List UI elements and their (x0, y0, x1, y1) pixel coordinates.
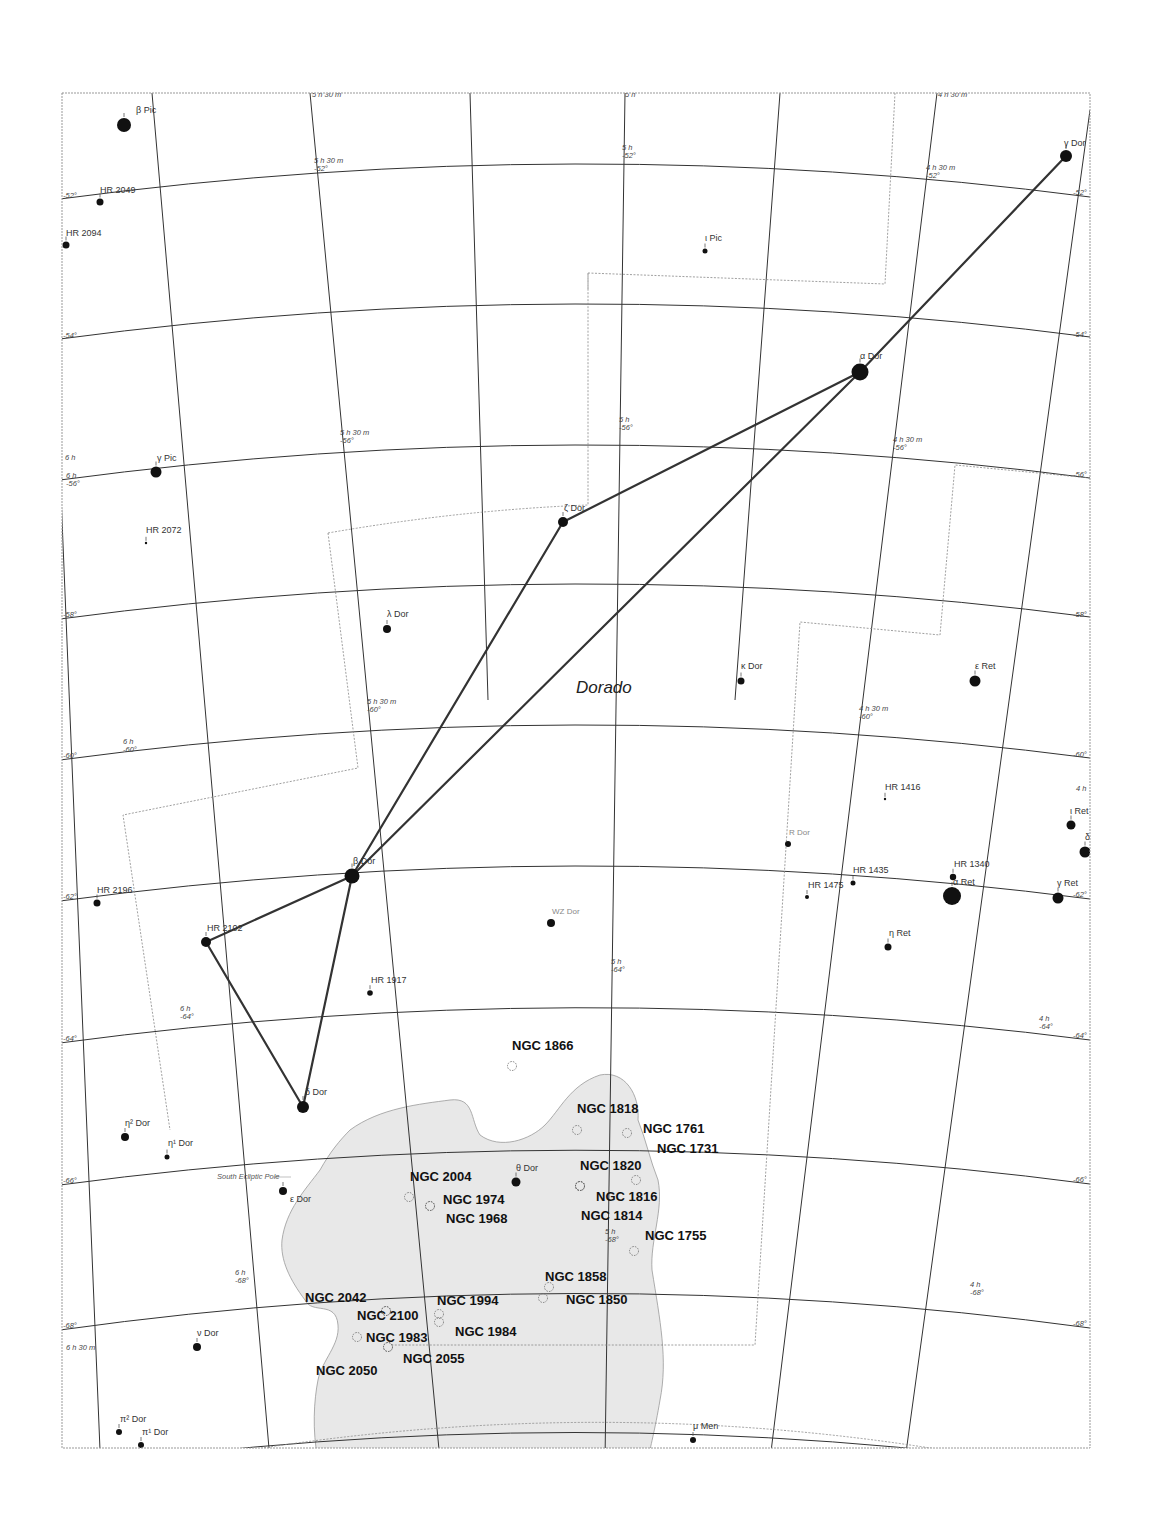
star-label: α Dor (860, 351, 882, 361)
grid-dec-label: -56° (619, 423, 633, 432)
star-icon (138, 1442, 144, 1448)
edge-dec-label: -54° (63, 331, 77, 340)
star-icon (297, 1101, 309, 1113)
star-icon (383, 625, 391, 633)
star-label: γ Ret (1057, 878, 1079, 888)
star-label: λ Dor (387, 609, 409, 619)
edge-dec-label: -52° (1073, 188, 1087, 197)
edge-dec-label: -60° (63, 751, 77, 760)
variable-star-icon (547, 919, 555, 927)
star-label: δ Ret (1085, 832, 1107, 842)
star-icon (805, 895, 809, 899)
deep-sky-label: NGC 2004 (410, 1169, 472, 1184)
figure-line (860, 156, 1066, 372)
variable-star-icon (785, 841, 791, 847)
deep-sky-label: NGC 2042 (305, 1290, 366, 1305)
edge-dec-label: -60° (1073, 750, 1087, 759)
edge-dec-label: -58° (1073, 610, 1087, 619)
star-label: HR 2049 (100, 185, 136, 195)
star-label: ν Dor (197, 1328, 219, 1338)
grid-dec-label: -60° (367, 705, 381, 714)
star-label: η² Dor (125, 1118, 150, 1128)
grid-dec-label: -56° (66, 479, 80, 488)
star-icon (121, 1133, 129, 1141)
deep-sky-label: NGC 1755 (645, 1228, 706, 1243)
deep-sky-label: NGC 2055 (403, 1351, 464, 1366)
figure-line (563, 372, 860, 522)
star-icon (558, 517, 568, 527)
star-icon (885, 944, 892, 951)
star-icon (738, 678, 745, 685)
deep-sky-label: NGC 1731 (657, 1141, 718, 1156)
grid-dec-label: -68° (235, 1276, 249, 1285)
grid-dec-label: -64° (1039, 1022, 1053, 1031)
star-label: θ Dor (516, 1163, 538, 1173)
star-label: ι Ret (1070, 806, 1089, 816)
star-icon (1053, 893, 1064, 904)
star-icon (851, 881, 856, 886)
grid-dec-label: -56° (340, 436, 354, 445)
deep-sky-label: NGC 1818 (577, 1101, 638, 1116)
star-icon (165, 1155, 170, 1160)
star-icon (117, 118, 131, 132)
deep-sky-label: NGC 1816 (596, 1189, 657, 1204)
star-label: β Dor (353, 856, 375, 866)
grid-dec-label: -56° (893, 443, 907, 452)
star-label: ε Ret (975, 661, 996, 671)
star-label: α Ret (953, 877, 975, 887)
ra-label: 5 h (625, 90, 635, 99)
star-label: HR 2196 (97, 885, 133, 895)
edge-dec-label: -64° (1073, 1031, 1087, 1040)
grid-dec-label: -52° (926, 171, 940, 180)
edge-dec-label: -62° (63, 892, 77, 901)
constellation-name: Dorado (576, 678, 632, 697)
star-icon (1067, 821, 1076, 830)
star-label: κ Dor (741, 661, 763, 671)
star-icon (970, 676, 981, 687)
star-label: HR 2102 (207, 923, 243, 933)
star-label: HR 1416 (885, 782, 921, 792)
deep-sky-label: NGC 2050 (316, 1363, 377, 1378)
star-icon (512, 1178, 521, 1187)
deep-sky-label: NGC 1994 (437, 1293, 499, 1308)
figure-line (303, 876, 352, 1107)
star-icon (367, 990, 373, 996)
grid-dec-label: -52° (314, 164, 328, 173)
deep-sky-label: NGC 1820 (580, 1158, 641, 1173)
deep-sky-label: NGC 1850 (566, 1292, 627, 1307)
star-icon (201, 937, 211, 947)
star-icon (703, 249, 708, 254)
edge-dec-label: -56° (1073, 470, 1087, 479)
grid-dec-label: -68° (605, 1235, 619, 1244)
deep-sky-label: NGC 1974 (443, 1192, 505, 1207)
edge-dec-label: -52° (63, 191, 77, 200)
star-icon (94, 900, 101, 907)
star-icon (884, 798, 886, 800)
star-label: ι Pic (705, 233, 723, 243)
star-icon (1060, 150, 1072, 162)
star-label: γ Pic (157, 453, 177, 463)
star-icon (852, 364, 869, 381)
edge-dec-label: -68° (63, 1321, 77, 1330)
star-icon (151, 467, 162, 478)
star-label: π¹ Dor (142, 1427, 168, 1437)
ra-label: 6 h 30 m (66, 1343, 95, 1352)
grid-dec-label: -68° (970, 1288, 984, 1297)
star-icon (116, 1429, 122, 1435)
edge-dec-label: -64° (63, 1034, 77, 1043)
deep-sky-label: NGC 1968 (446, 1211, 507, 1226)
grid-dec-label: -64° (180, 1012, 194, 1021)
star-label: HR 1435 (853, 865, 889, 875)
star-label: ζ Dor (564, 503, 585, 513)
ra-label: 4 h (1076, 784, 1086, 793)
deep-sky-label: NGC 1814 (581, 1208, 643, 1223)
constellation-figure (206, 156, 1066, 1107)
star-label: HR 2094 (66, 228, 102, 238)
star-label: μ Men (693, 1421, 718, 1431)
star-icon (63, 242, 70, 249)
variable-star-label: WZ Dor (552, 907, 580, 916)
star-icon (943, 887, 961, 905)
star-icon (1080, 847, 1091, 858)
ra-label: 6 h (65, 453, 75, 462)
star-label: δ Dor (305, 1087, 327, 1097)
